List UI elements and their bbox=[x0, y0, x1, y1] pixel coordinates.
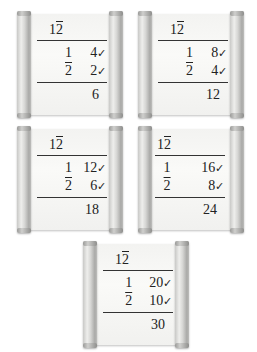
divider-line bbox=[155, 155, 225, 156]
divider-line bbox=[103, 312, 173, 313]
scroll-1: 12 1 4 ✓ 2 2 ✓ 6 bbox=[17, 11, 123, 118]
divider-line bbox=[158, 40, 228, 41]
row-value: 12 bbox=[72, 159, 97, 177]
scroll-4: 12 1 16 ✓ 2 8 ✓ 24 bbox=[138, 126, 244, 233]
multiplier-fraction: 2 bbox=[56, 137, 63, 152]
divider-line bbox=[37, 82, 107, 83]
row-value: 2 bbox=[72, 62, 97, 80]
table-row: 2 8 ✓ bbox=[155, 177, 225, 195]
check-icon: ✓ bbox=[215, 159, 225, 177]
row-multiplier: 2 bbox=[103, 292, 132, 310]
check-icon: ✓ bbox=[97, 44, 107, 62]
scroll-rod-right bbox=[109, 11, 123, 118]
row-value: 16 bbox=[171, 159, 216, 177]
multiplier-whole: 1 bbox=[157, 137, 164, 152]
divider-line bbox=[158, 82, 228, 83]
divider-line bbox=[37, 197, 107, 198]
multiplication-table: 12 1 16 ✓ 2 8 ✓ 24 bbox=[155, 136, 225, 219]
row-multiplier: 1 bbox=[103, 274, 132, 292]
multiplication-table: 12 1 4 ✓ 2 2 ✓ 6 bbox=[37, 21, 107, 104]
scroll-rod-left bbox=[83, 241, 97, 348]
divider-line bbox=[37, 155, 107, 156]
multiplier-whole: 1 bbox=[49, 137, 56, 152]
row-value: 6 bbox=[72, 177, 97, 195]
check-icon: ✓ bbox=[163, 274, 173, 292]
scroll-rod-left bbox=[138, 126, 152, 233]
multiplier-header: 12 bbox=[155, 136, 225, 153]
table-row: 2 6 ✓ bbox=[37, 177, 107, 195]
scroll-rod-right bbox=[230, 11, 244, 118]
check-icon: ✓ bbox=[163, 292, 173, 310]
divider-line bbox=[37, 40, 107, 41]
scroll-3: 12 1 12 ✓ 2 6 ✓ 18 bbox=[17, 126, 123, 233]
scroll-rod-left bbox=[138, 11, 152, 118]
check-icon: ✓ bbox=[97, 62, 107, 80]
scroll-rod-right bbox=[175, 241, 189, 348]
multiplier-fraction: 2 bbox=[122, 252, 129, 267]
sum-total: 12 bbox=[158, 86, 220, 104]
table-row: 2 10 ✓ bbox=[103, 292, 173, 310]
multiplier-fraction: 2 bbox=[177, 22, 184, 37]
row-value: 10 bbox=[132, 292, 163, 310]
multiplication-table: 12 1 8 ✓ 2 4 ✓ 12 bbox=[158, 21, 228, 104]
scroll-5: 12 1 20 ✓ 2 10 ✓ 30 bbox=[83, 241, 189, 348]
row-multiplier: 2 bbox=[155, 177, 171, 195]
row-value: 20 bbox=[132, 274, 163, 292]
scroll-rod-right bbox=[109, 126, 123, 233]
multiplier-whole: 1 bbox=[115, 252, 122, 267]
table-row: 2 4 ✓ bbox=[158, 62, 228, 80]
sum-total: 30 bbox=[103, 316, 165, 334]
row-value: 4 bbox=[72, 44, 97, 62]
row-value: 4 bbox=[193, 62, 218, 80]
row-multiplier: 2 bbox=[37, 62, 72, 80]
multiplier-header: 12 bbox=[103, 251, 173, 268]
table-row: 1 12 ✓ bbox=[37, 159, 107, 177]
multiplication-table: 12 1 12 ✓ 2 6 ✓ 18 bbox=[37, 136, 107, 219]
row-multiplier: 1 bbox=[37, 44, 72, 62]
table-row: 1 16 ✓ bbox=[155, 159, 225, 177]
check-icon: ✓ bbox=[97, 159, 107, 177]
row-multiplier: 2 bbox=[37, 177, 72, 195]
row-multiplier: 2 bbox=[158, 62, 193, 80]
multiplier-header: 12 bbox=[37, 136, 107, 153]
scroll-rod-left bbox=[17, 11, 31, 118]
multiplier-fraction: 2 bbox=[56, 22, 63, 37]
row-multiplier: 1 bbox=[37, 159, 72, 177]
table-row: 1 20 ✓ bbox=[103, 274, 173, 292]
row-value: 8 bbox=[193, 44, 218, 62]
row-multiplier: 1 bbox=[158, 44, 193, 62]
multiplier-header: 12 bbox=[158, 21, 228, 38]
scroll-rod-right bbox=[230, 126, 244, 233]
check-icon: ✓ bbox=[218, 44, 228, 62]
check-icon: ✓ bbox=[215, 177, 225, 195]
table-row: 2 2 ✓ bbox=[37, 62, 107, 80]
multiplier-whole: 1 bbox=[49, 22, 56, 37]
divider-line bbox=[155, 197, 225, 198]
check-icon: ✓ bbox=[97, 177, 107, 195]
multiplier-header: 12 bbox=[37, 21, 107, 38]
scroll-2: 12 1 8 ✓ 2 4 ✓ 12 bbox=[138, 11, 244, 118]
scroll-rod-left bbox=[17, 126, 31, 233]
sum-total: 24 bbox=[155, 201, 217, 219]
sum-total: 18 bbox=[37, 201, 99, 219]
row-value: 8 bbox=[171, 177, 216, 195]
multiplication-table: 12 1 20 ✓ 2 10 ✓ 30 bbox=[103, 251, 173, 334]
table-row: 1 8 ✓ bbox=[158, 44, 228, 62]
divider-line bbox=[103, 270, 173, 271]
check-icon: ✓ bbox=[218, 62, 228, 80]
multiplier-fraction: 2 bbox=[164, 137, 171, 152]
row-multiplier: 1 bbox=[155, 159, 171, 177]
sum-total: 6 bbox=[37, 86, 99, 104]
table-row: 1 4 ✓ bbox=[37, 44, 107, 62]
multiplier-whole: 1 bbox=[170, 22, 177, 37]
